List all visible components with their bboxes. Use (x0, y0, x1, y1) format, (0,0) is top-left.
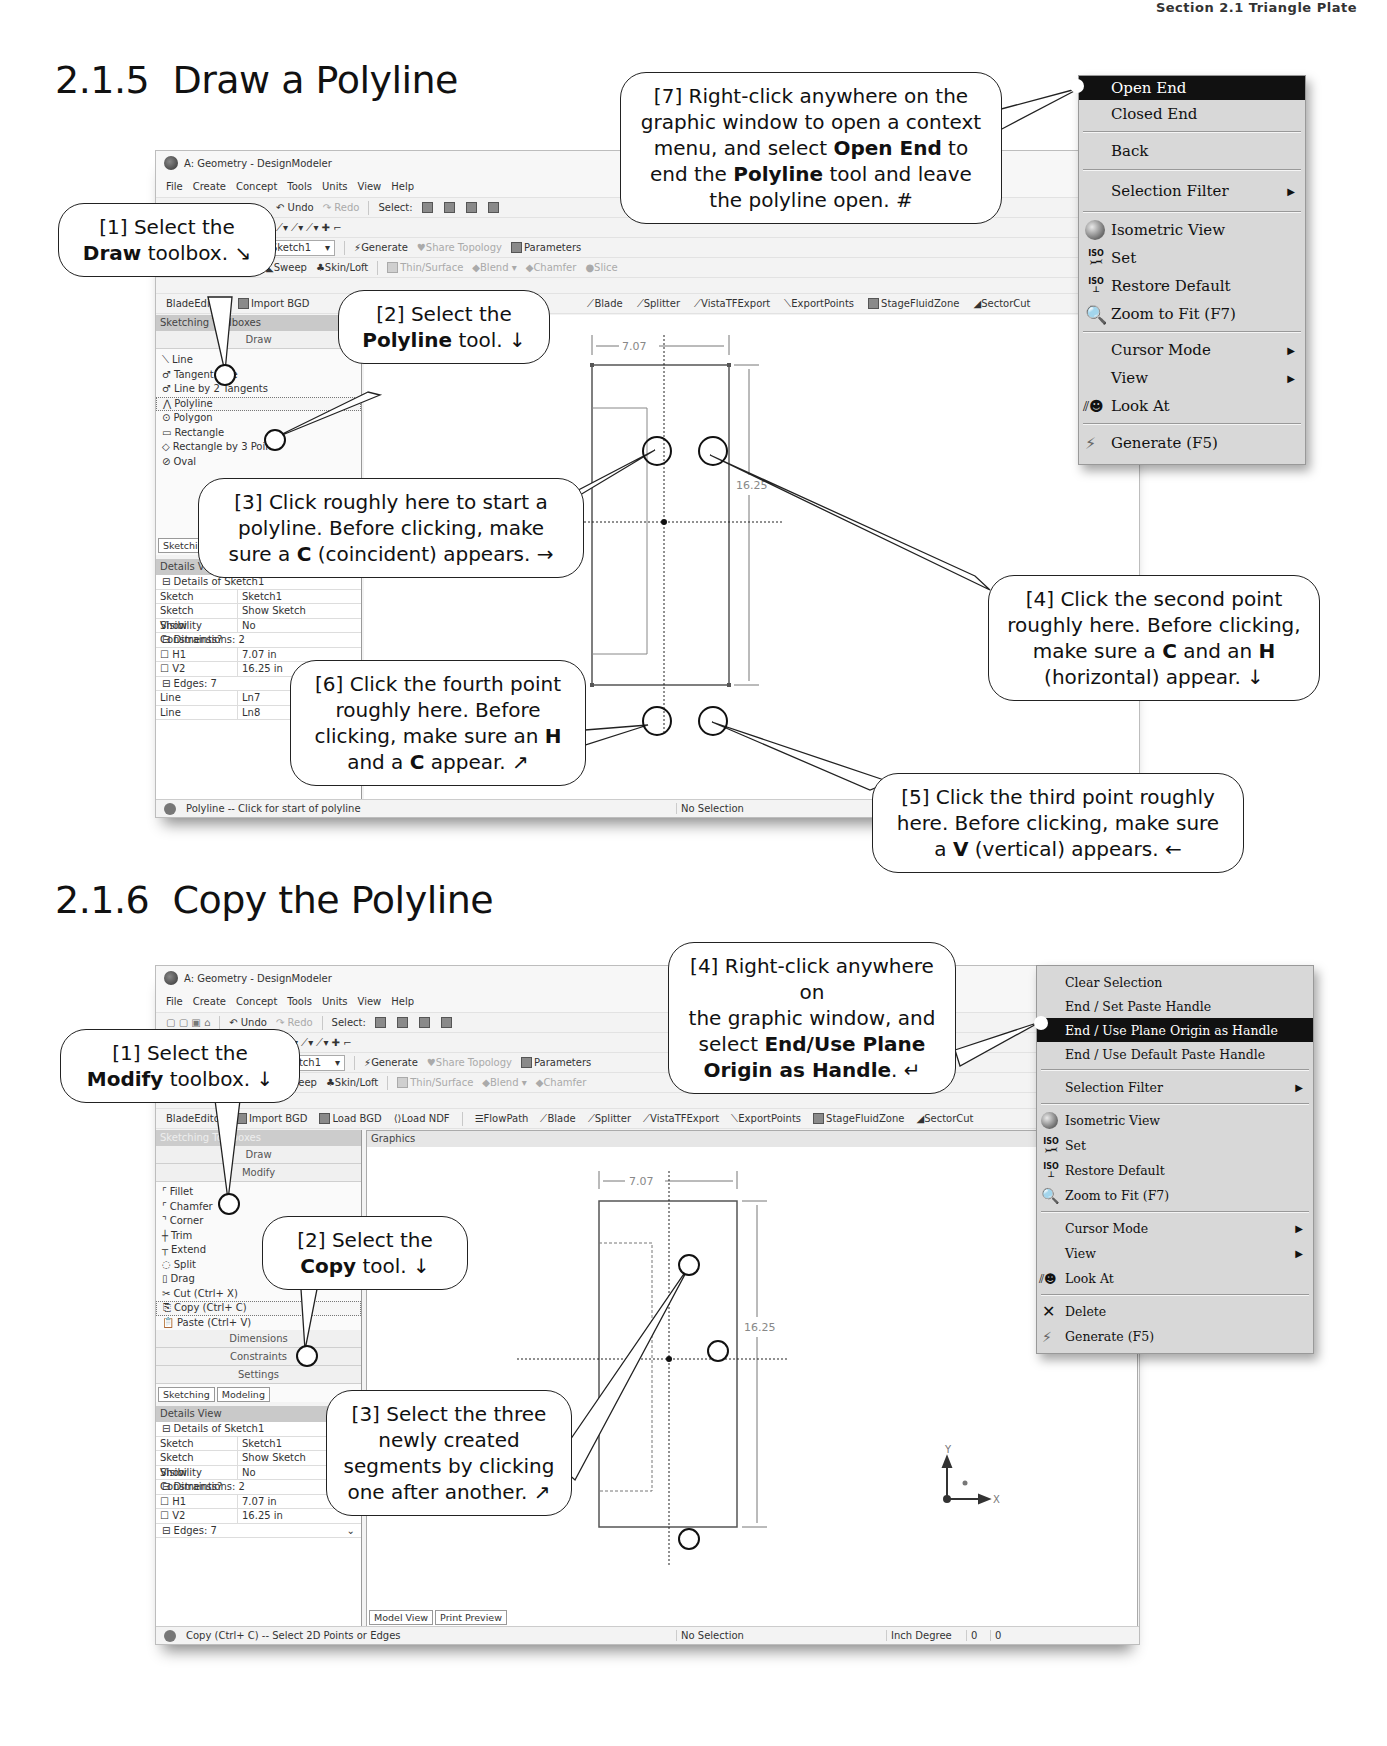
details-group[interactable]: ⊟ Edges: 7⌄ (156, 1524, 361, 1539)
vistatfexport-button[interactable]: ⟋VistaTFExport (694, 298, 770, 310)
dimension-row[interactable]: ☐ V216.25 in (156, 1509, 361, 1524)
splitter-button[interactable]: ⟋Splitter (588, 1113, 631, 1125)
menu-item-look-at[interactable]: ⫽☻Look At (1037, 1266, 1313, 1291)
menu-help[interactable]: Help (391, 996, 414, 1007)
menu-item-generate[interactable]: ⚡Generate (F5) (1079, 428, 1305, 458)
undo-button[interactable]: ↶ Undo (276, 202, 314, 213)
tool-polygon[interactable]: ⊙Polygon (156, 411, 361, 426)
splitter-button[interactable]: ⟋Splitter (637, 298, 680, 310)
menu-view[interactable]: View (358, 996, 382, 1007)
toolbox-constraints[interactable]: Constraints (156, 1348, 361, 1366)
menu-item-closed-end[interactable]: Closed End (1079, 100, 1305, 128)
import-bgd-button[interactable]: Import BGD (236, 1113, 308, 1125)
details-row[interactable]: Sketch VisibilityShow Sketch (156, 604, 361, 619)
menu-help[interactable]: Help (391, 181, 414, 192)
redo-button[interactable]: ↷ Redo (276, 1017, 313, 1028)
menu-item-selection-filter[interactable]: Selection Filter▶ (1079, 174, 1305, 208)
look-at-icon[interactable]: ⟋▾ ⟋▾ ⟋▾ ✚ ⌐ (276, 222, 342, 234)
blade-button[interactable]: ⟋Blade (540, 1113, 575, 1125)
toolbox-settings[interactable]: Settings (156, 1366, 361, 1384)
tool-chamfer[interactable]: ⌜Chamfer (156, 1200, 361, 1215)
details-group[interactable]: ⊟ Dimensions: 2 (156, 633, 361, 648)
tool-tangent-line[interactable]: ♂Tangent Line (156, 368, 361, 383)
menu-create[interactable]: Create (193, 996, 226, 1007)
menu-units[interactable]: Units (322, 996, 348, 1007)
tool-line[interactable]: ⟍Line (156, 353, 361, 368)
tool-oval[interactable]: ⊘Oval (156, 455, 361, 470)
thin-surface-button[interactable]: Thin/Surface (397, 1077, 473, 1089)
stagefluidzone-button[interactable]: StageFluidZone (813, 1113, 904, 1125)
menu-item-view[interactable]: View▶ (1079, 364, 1305, 392)
menu-item-look-at[interactable]: ⫽☻Look At (1079, 392, 1305, 420)
blend-button[interactable]: ◆Blend ▾ (482, 1077, 526, 1088)
menu-item-clear-selection[interactable]: Clear Selection (1037, 970, 1313, 994)
menu-item-selection-filter[interactable]: Selection Filter▶ (1037, 1074, 1313, 1100)
toolbox-draw[interactable]: Draw (156, 1146, 361, 1164)
chamfer-button[interactable]: ◆Chamfer (536, 1077, 587, 1088)
select-edge-icon[interactable] (441, 1017, 452, 1028)
menu-file[interactable]: File (166, 181, 183, 192)
menu-file[interactable]: File (166, 996, 183, 1007)
toolbox-dimensions[interactable]: Dimensions (156, 1330, 361, 1348)
toolbox-modify[interactable]: Modify (156, 1164, 361, 1182)
share-topology-button[interactable]: ♥Share Topology (427, 1057, 512, 1068)
menu-item-end-use-default-handle[interactable]: End / Use Default Paste Handle (1037, 1042, 1313, 1066)
menu-item-cursor-mode[interactable]: Cursor Mode▶ (1037, 1216, 1313, 1241)
menu-concept[interactable]: Concept (236, 996, 277, 1007)
menu-create[interactable]: Create (193, 181, 226, 192)
menu-item-zoom-to-fit[interactable]: 🔍Zoom to Fit (F7) (1079, 300, 1305, 328)
parameters-button[interactable]: Parameters (521, 1057, 591, 1069)
redo-button[interactable]: ↷ Redo (323, 202, 360, 213)
select-point-icon[interactable] (422, 202, 433, 213)
tool-paste[interactable]: 📋Paste (Ctrl+ V) (156, 1316, 361, 1331)
tool-line-by-2-tangents[interactable]: ♂Line by 2 Tangents (156, 382, 361, 397)
import-bgd-button[interactable]: Import BGD (238, 298, 310, 310)
menu-tools[interactable]: Tools (287, 181, 312, 192)
select-edge-icon[interactable] (488, 202, 499, 213)
menu-tools[interactable]: Tools (287, 996, 312, 1007)
tool-rectangle-3pt[interactable]: ◇Rectangle by 3 Points (156, 440, 361, 455)
tool-polyline[interactable]: ⋀Polyline (156, 397, 361, 412)
graphics-window[interactable]: Graphics 7.07 16.25 Y X (366, 1130, 1138, 1628)
sketch-dropdown[interactable]: Sketch1▾ (266, 240, 335, 256)
menu-item-end-set-paste-handle[interactable]: End / Set Paste Handle (1037, 994, 1313, 1018)
tool-fillet[interactable]: ⌜Fillet (156, 1185, 361, 1200)
menu-item-open-end[interactable]: Open End (1079, 76, 1305, 100)
skin-loft-button[interactable]: ♣Skin/Loft (326, 1077, 378, 1088)
menu-item-view[interactable]: View▶ (1037, 1241, 1313, 1266)
sectorcut-button[interactable]: ◢SectorCut (973, 298, 1030, 309)
bladeeditor-button[interactable]: BladeEditor (166, 298, 224, 309)
generate-button[interactable]: ⚡Generate (354, 242, 408, 253)
menu-item-back[interactable]: Back (1079, 136, 1305, 166)
tab-model-view[interactable]: Model View (369, 1610, 433, 1625)
chamfer-button[interactable]: ◆Chamfer (526, 262, 577, 273)
tab-modeling[interactable]: Modeling (217, 1387, 270, 1402)
parameters-button[interactable]: Parameters (511, 242, 581, 254)
menu-item-isometric-view[interactable]: Isometric View (1037, 1108, 1313, 1133)
flowpath-button[interactable]: ☰FlowPath (475, 1113, 529, 1124)
menu-concept[interactable]: Concept (236, 181, 277, 192)
menu-item-set[interactable]: ISO⤚⤙Set (1037, 1133, 1313, 1158)
select-body-icon[interactable] (466, 202, 477, 213)
menu-item-delete[interactable]: ✕Delete (1037, 1299, 1313, 1324)
menu-item-cursor-mode[interactable]: Cursor Mode▶ (1079, 336, 1305, 364)
menu-item-isometric-view[interactable]: Isometric View (1079, 216, 1305, 244)
menu-item-restore-default[interactable]: ISO⊥Restore Default (1037, 1158, 1313, 1183)
scroll-down-icon[interactable]: ⌄ (347, 1524, 355, 1538)
skin-loft-button[interactable]: ♣Skin/Loft (316, 262, 368, 273)
tool-rectangle[interactable]: ▭Rectangle (156, 426, 361, 441)
tab-print-preview[interactable]: Print Preview (435, 1610, 507, 1625)
exportpoints-button[interactable]: ⟍ExportPoints (731, 1113, 801, 1125)
menu-item-restore-default[interactable]: ISO⊥Restore Default (1079, 272, 1305, 300)
menu-units[interactable]: Units (322, 181, 348, 192)
slice-button[interactable]: ●Slice (585, 262, 617, 273)
exportpoints-button[interactable]: ⟍ExportPoints (784, 298, 854, 310)
share-topology-button[interactable]: ♥Share Topology (417, 242, 502, 253)
file-icons[interactable]: ▢ ▢ ▣ ⌂ (166, 1017, 210, 1028)
load-bgd-button[interactable]: Load BGD (319, 1113, 381, 1125)
menu-item-end-use-plane-origin[interactable]: End / Use Plane Origin as Handle (1037, 1018, 1313, 1042)
undo-button[interactable]: ↶ Undo (229, 1017, 267, 1028)
load-ndf-button[interactable]: ⟨⟩Load NDF (394, 1113, 450, 1124)
select-body-icon[interactable] (419, 1017, 430, 1028)
tab-sketching[interactable]: Sketching (158, 1387, 215, 1402)
